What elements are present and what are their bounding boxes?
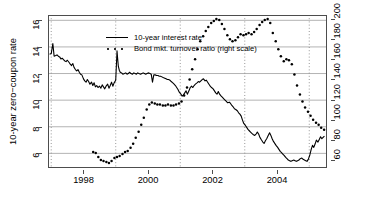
y-tick-mark-right (331, 59, 335, 60)
y-axis-left-ticklabels: 6810121416 (16, 15, 42, 168)
x-tick-label: 2004 (267, 175, 288, 185)
y-tick-mark-left (38, 47, 42, 48)
y-tick-mark-left (38, 100, 42, 101)
y-tick-label-right: 60 (333, 149, 342, 159)
x-tick-label: 1998 (73, 175, 94, 185)
y-tick-mark-right (331, 140, 335, 141)
y-tick-label-left: 12 (32, 73, 41, 83)
plot-area: 10-year interest rate Bond mkt. turnover… (48, 15, 327, 168)
y-tick-mark-right (331, 160, 335, 161)
x-tick-mark (148, 170, 149, 174)
legend-item-interest-rate: 10-year interest rate (104, 32, 257, 43)
y-tick-label-left: 16 (32, 20, 41, 30)
y-tick-label-right: 180 (333, 23, 342, 39)
y-tick-label-right: 200 (333, 3, 342, 19)
y-tick-label-left: 10 (32, 100, 41, 110)
y-tick-label-right: 100 (333, 104, 342, 120)
y-tick-label-right: 160 (333, 43, 342, 59)
x-tick-mark (212, 170, 213, 174)
y-axis-right-ticklabels: 6080100120140160180200 (329, 15, 359, 168)
legend-label-interest-rate: 10-year interest rate (134, 32, 202, 43)
legend-key-solid-line-icon (104, 32, 130, 43)
y-tick-mark-right (331, 79, 335, 80)
legend: 10-year interest rate Bond mkt. turnover… (104, 32, 257, 54)
y-tick-mark-left (38, 153, 42, 154)
figure: 10-year zero−coupon rate 6810121416 10-y… (0, 0, 373, 203)
y-tick-mark-right (331, 39, 335, 40)
y-tick-label-right: 140 (333, 63, 342, 79)
y-tick-mark-left (38, 20, 42, 21)
legend-key-dotted-line-icon (104, 43, 130, 54)
x-tick-mark (83, 170, 84, 174)
y-tick-label-right: 120 (333, 84, 342, 100)
y-tick-mark-right (331, 120, 335, 121)
y-tick-mark-left (38, 74, 42, 75)
x-tick-label: 2002 (202, 175, 223, 185)
legend-label-turnover-ratio: Bond mkt. turnover ratio (right scale) (134, 43, 257, 54)
y-tick-label-left: 14 (32, 46, 41, 56)
legend-item-turnover-ratio: Bond mkt. turnover ratio (right scale) (104, 43, 257, 54)
y-tick-mark-right (331, 19, 335, 20)
y-tick-mark-left (38, 127, 42, 128)
x-tick-mark (277, 170, 278, 174)
x-axis-ticklabels: 1998200020022004 (48, 170, 327, 190)
y-tick-label-right: 80 (333, 129, 342, 139)
x-tick-label: 2000 (138, 175, 159, 185)
y-tick-mark-right (331, 100, 335, 101)
